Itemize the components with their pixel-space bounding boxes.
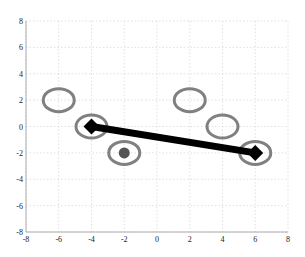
x-tick-label: -6 [55,235,62,244]
x-tick-label: 6 [253,235,257,244]
x-tick-label: -2 [121,235,128,244]
scatter-chart: -8-6-4-202468-8-6-4-202468 [0,0,305,257]
grid-lines [26,21,288,232]
x-tick-label: 0 [155,235,159,244]
black-line [92,127,256,153]
diamond-marker [84,119,100,135]
y-tick-label: 2 [19,96,23,105]
tick-labels: -8-6-4-202468-8-6-4-202468 [16,17,290,244]
x-tick-label: 8 [286,235,290,244]
x-tick-label: -4 [88,235,95,244]
y-tick-label: -8 [16,228,23,237]
connecting-line [84,119,264,161]
y-tick-label: 8 [19,17,23,26]
y-tick-label: -6 [16,202,23,211]
x-tick-label: -8 [23,235,30,244]
x-tick-label: 2 [188,235,192,244]
y-tick-label: 6 [19,43,23,52]
x-tick-label: 4 [221,235,225,244]
y-tick-label: 0 [19,123,23,132]
y-tick-label: -4 [16,175,23,184]
y-tick-label: 4 [19,70,23,79]
diamond-marker [247,145,263,161]
y-tick-label: -2 [16,149,23,158]
filled-dot-markers [119,147,130,158]
filled-dot [119,147,130,158]
